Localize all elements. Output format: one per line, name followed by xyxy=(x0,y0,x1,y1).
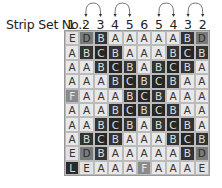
grid-cell: A xyxy=(195,74,209,88)
grid-cell: B xyxy=(195,132,209,146)
grid-cell: B xyxy=(123,117,137,131)
grid-cell: A xyxy=(108,89,122,103)
grid-cell: B xyxy=(94,117,108,131)
grid-cell: B xyxy=(180,146,194,160)
grid-cell: A xyxy=(166,31,180,45)
grid-cell: A xyxy=(65,103,79,117)
grid-cell: A xyxy=(94,74,108,88)
grid-cell: C xyxy=(180,45,194,59)
grid-cell: A xyxy=(123,31,137,45)
grid-cell: L xyxy=(65,161,79,175)
grid-cell: E xyxy=(65,31,79,45)
grid-cell: C xyxy=(108,117,122,131)
grid-cell: B xyxy=(151,117,165,131)
grid-cell: A xyxy=(180,103,194,117)
grid-cell: A xyxy=(195,103,209,117)
pair-arc xyxy=(86,3,101,15)
grid-cell: B xyxy=(94,146,108,160)
grid-cell: A xyxy=(166,146,180,160)
grid-cell: A xyxy=(108,161,122,175)
quilt-grid: EDBAAAAABDABCBAAABCBAABCBABCBAAAABCBCBAA… xyxy=(64,30,210,176)
grid-cell: C xyxy=(166,60,180,74)
grid-cell: B xyxy=(180,117,194,131)
grid-cell: B xyxy=(123,89,137,103)
grid-cell: C xyxy=(94,45,108,59)
grid-cell: B xyxy=(79,132,93,146)
grid-cell: A xyxy=(65,74,79,88)
grid-cell: D xyxy=(79,146,93,160)
grid-cell: D xyxy=(195,146,209,160)
grid-cell: A xyxy=(79,89,93,103)
grid-cell: B xyxy=(108,103,122,117)
grid-cell: A xyxy=(180,74,194,88)
grid-cell: A xyxy=(94,103,108,117)
grid-cell: A xyxy=(108,146,122,160)
grid-cell: B xyxy=(166,74,180,88)
grid-cell: A xyxy=(65,60,79,74)
grid-cell: B xyxy=(137,103,151,117)
grid-cell: A xyxy=(137,132,151,146)
grid-cell: C xyxy=(151,74,165,88)
grid-cell: C xyxy=(94,132,108,146)
grid-cell: C xyxy=(151,103,165,117)
grid-cell: C xyxy=(123,74,137,88)
grid-cell: A xyxy=(123,45,137,59)
grid-cell: A xyxy=(151,146,165,160)
grid-cell: E xyxy=(195,161,209,175)
grid-cell: E xyxy=(65,146,79,160)
grid-cell: B xyxy=(166,132,180,146)
grid-cell: A xyxy=(137,117,151,131)
grid-cell: B xyxy=(108,74,122,88)
grid-cell: A xyxy=(137,146,151,160)
strip-set-numbers: 1234565432 xyxy=(64,17,210,31)
grid-cell: B xyxy=(195,45,209,59)
grid-cell: A xyxy=(180,89,194,103)
grid-cell: A xyxy=(79,103,93,117)
grid-cell: A xyxy=(137,45,151,59)
grid-cell: A xyxy=(180,161,194,175)
grid-cell: A xyxy=(137,31,151,45)
grid-cell: A xyxy=(166,89,180,103)
grid-cell: C xyxy=(137,89,151,103)
grid-cell: A xyxy=(195,89,209,103)
grid-cell: B xyxy=(123,60,137,74)
grid-cell: A xyxy=(94,161,108,175)
grid-cell: A xyxy=(151,132,165,146)
grid-cell: A xyxy=(65,132,79,146)
grid-cell: A xyxy=(108,31,122,45)
grid-cell: C xyxy=(108,60,122,74)
grid-cell: D xyxy=(195,31,209,45)
grid-cell: B xyxy=(79,45,93,59)
grid-cell: C xyxy=(123,103,137,117)
grid-cell: B xyxy=(180,60,194,74)
grid-cell: A xyxy=(137,60,151,74)
grid-cell: B xyxy=(108,45,122,59)
grid-cell: B xyxy=(166,103,180,117)
grid-cell: A xyxy=(65,117,79,131)
grid-cell: A xyxy=(79,117,93,131)
grid-cell: F xyxy=(65,89,79,103)
grid-cell: A xyxy=(123,161,137,175)
grid-cell: C xyxy=(180,132,194,146)
grid-cell: B xyxy=(108,132,122,146)
grid-cell: A xyxy=(94,89,108,103)
pair-arc xyxy=(159,3,174,15)
grid-cell: A xyxy=(151,31,165,45)
grid-cell: A xyxy=(195,60,209,74)
grid-cell: B xyxy=(94,60,108,74)
grid-cell: A xyxy=(151,161,165,175)
grid-cell: F xyxy=(137,161,151,175)
grid-cell: A xyxy=(151,45,165,59)
grid-cell: A xyxy=(65,45,79,59)
grid-cell: A xyxy=(195,117,209,131)
grid-cell: B xyxy=(151,89,165,103)
grid-cell: B xyxy=(94,31,108,45)
pair-arc xyxy=(115,3,130,15)
grid-cell: A xyxy=(79,74,93,88)
grid-cell: A xyxy=(79,60,93,74)
grid-cell: B xyxy=(180,31,194,45)
grid-cell: A xyxy=(166,161,180,175)
pair-arc xyxy=(188,3,203,15)
grid-cell: A xyxy=(123,146,137,160)
grid-cell: B xyxy=(151,60,165,74)
